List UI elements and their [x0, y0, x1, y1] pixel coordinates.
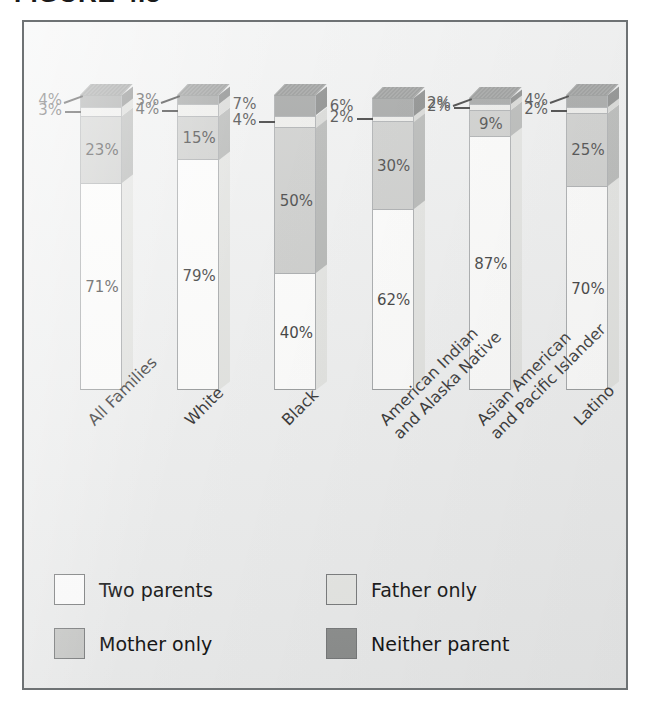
plot-area: 23%71%4%3%15%79%3%4%50%40%7%4%30%62%6%2%…	[24, 22, 626, 402]
bar-group[interactable]: 23%71%	[80, 84, 133, 390]
chart-legend: Two parentsFather onlyMother onlyNeither…	[54, 574, 594, 670]
callout-leader-line	[454, 107, 470, 109]
segment-value-label: 79%	[178, 267, 220, 285]
bar-segment-neither	[372, 98, 414, 116]
bar-segment-mother-only: 23%	[80, 116, 122, 183]
bar-group[interactable]: 30%62%	[372, 87, 425, 390]
segment-value-label: 23%	[81, 141, 123, 159]
bar-segment-neither	[177, 95, 219, 104]
bar-segment-father-only	[80, 107, 122, 116]
legend-label: Mother only	[99, 633, 212, 655]
bar-stack[interactable]: 23%71%	[80, 95, 122, 390]
segment-value-label: 50%	[275, 192, 317, 210]
bar-stack[interactable]: 50%40%	[274, 95, 316, 390]
legend-item[interactable]: Neither parent	[326, 628, 510, 659]
legend-swatch-father-only	[326, 574, 357, 605]
legend-swatch-neither	[326, 628, 357, 659]
bar-segment-two-parents: 62%	[372, 209, 414, 390]
bar-segment-mother-only: 50%	[274, 127, 316, 273]
callout-leader-line	[259, 121, 275, 123]
bar-side-segment	[608, 177, 619, 390]
callout-leader-line	[162, 110, 178, 112]
figure-number: FIGURE 4.3	[14, 0, 161, 9]
bar-side-segment	[219, 151, 230, 390]
segment-value-label: 15%	[178, 129, 220, 147]
bar-segment-two-parents: 71%	[80, 183, 122, 390]
bar-segment-father-only	[274, 116, 316, 128]
bar-segment-two-parents: 40%	[274, 273, 316, 390]
bar-group[interactable]: 15%79%	[177, 84, 230, 390]
bar-group[interactable]: 50%40%	[274, 84, 327, 390]
bar-side-segment	[316, 265, 327, 390]
bar-segment-mother-only: 25%	[566, 113, 608, 186]
bar-side-segment	[608, 104, 619, 186]
category-axis-labels: All FamiliesWhiteBlackAmerican Indianand…	[24, 406, 626, 566]
figure-title: Where children live	[175, 0, 349, 5]
callout-leader-line	[357, 118, 373, 120]
callout-father-only: 2%	[320, 108, 354, 126]
segment-value-label: 71%	[81, 278, 123, 296]
segment-value-label: 70%	[567, 280, 609, 298]
bar-segment-mother-only: 30%	[372, 121, 414, 209]
callout-father-only: 2%	[417, 97, 451, 115]
segment-value-label: 40%	[275, 324, 317, 342]
bar-side-segment	[316, 119, 327, 274]
bar-segment-neither	[566, 95, 608, 107]
callout-father-only: 4%	[222, 111, 256, 129]
bar-segment-mother-only: 15%	[177, 116, 219, 160]
legend-item[interactable]: Two parents	[54, 574, 213, 605]
callout-leader-line	[65, 111, 81, 113]
bar-segment-mother-only: 9%	[469, 110, 511, 136]
legend-label: Father only	[371, 579, 477, 601]
chart-frame: 23%71%4%3%15%79%3%4%50%40%7%4%30%62%6%2%…	[22, 20, 628, 690]
legend-label: Neither parent	[371, 633, 510, 655]
callout-father-only: 2%	[514, 100, 548, 118]
bar-side-segment	[414, 200, 425, 390]
bar-segment-two-parents: 79%	[177, 159, 219, 390]
legend-swatch-mother-only	[54, 628, 85, 659]
segment-value-label: 30%	[373, 157, 415, 175]
legend-label: Two parents	[99, 579, 213, 601]
bar-side-segment	[122, 174, 133, 390]
segment-value-label: 9%	[470, 115, 512, 133]
legend-item[interactable]: Mother only	[54, 628, 212, 659]
bar-side-segment	[511, 127, 522, 390]
legend-item[interactable]: Father only	[326, 574, 477, 605]
callout-father-only: 3%	[28, 101, 62, 119]
callout-leader-line	[551, 110, 567, 112]
bar-stack[interactable]: 30%62%	[372, 98, 414, 390]
segment-value-label: 25%	[567, 141, 609, 159]
bar-segment-father-only	[177, 104, 219, 116]
bar-segment-neither	[80, 95, 122, 107]
bar-stack[interactable]: 15%79%	[177, 95, 219, 390]
bar-side-segment	[122, 107, 133, 183]
segment-value-label: 87%	[470, 255, 512, 273]
bar-side-segment	[414, 113, 425, 209]
figure-caption-remnant: FIGURE 4.3 Where children live	[0, 0, 652, 14]
bar-segment-neither	[274, 95, 316, 115]
segment-value-label: 62%	[373, 291, 415, 309]
callout-father-only: 4%	[125, 100, 159, 118]
legend-swatch-two-parents	[54, 574, 85, 605]
